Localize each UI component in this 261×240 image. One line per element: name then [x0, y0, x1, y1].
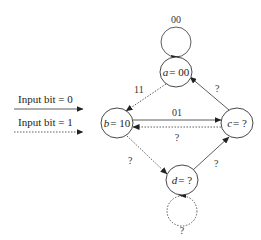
edge-a-self-loop [161, 27, 191, 57]
svg-text:b= 10: b= 10 [104, 117, 131, 129]
edge-label-d-self: ? [180, 225, 185, 236]
legend-label-input-0: Input bit = 0 [18, 93, 73, 105]
edge-d-to-c [193, 137, 229, 170]
edge-d-self-loop [167, 196, 197, 226]
edge-c-to-a [190, 77, 229, 110]
state-diagram: Input bit = 0 Input bit = 1 00 11 ? 01 ?… [0, 0, 261, 240]
edge-b-to-d [127, 136, 167, 174]
node-b-var: b [104, 117, 110, 129]
node-b-value: = 10 [110, 117, 130, 129]
node-b: b= 10 [101, 108, 133, 138]
edge-label-b-to-c: 01 [172, 107, 182, 118]
node-a-value: = 00 [169, 66, 189, 78]
edge-label-b-to-d: ? [128, 155, 133, 166]
node-c: c= ? [221, 108, 253, 138]
edge-label-c-to-a: ? [215, 83, 220, 94]
node-d-value: = ? [178, 174, 192, 186]
edge-label-a-self: 00 [171, 14, 181, 25]
legend-label-input-1: Input bit = 1 [18, 116, 73, 128]
edge-label-d-to-c: ? [214, 158, 219, 169]
svg-text:a= 00: a= 00 [163, 66, 190, 78]
node-a-var: a [163, 66, 169, 78]
node-d: d= ? [166, 165, 198, 195]
node-c-var: c [227, 117, 232, 129]
legend: Input bit = 0 Input bit = 1 [14, 93, 83, 132]
node-a: a= 00 [160, 57, 192, 87]
edge-label-a-to-b: 11 [134, 84, 144, 95]
edge-label-c-to-b: ? [175, 132, 180, 143]
edge-a-to-b [126, 84, 166, 111]
node-d-var: d [172, 174, 178, 186]
svg-text:d= ?: d= ? [172, 174, 192, 186]
svg-text:c= ?: c= ? [227, 117, 247, 129]
node-c-value: = ? [233, 117, 247, 129]
